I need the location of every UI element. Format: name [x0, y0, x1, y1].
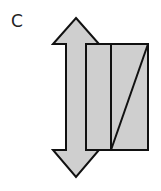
divided-rectangle — [86, 44, 148, 150]
diagram — [0, 0, 161, 191]
